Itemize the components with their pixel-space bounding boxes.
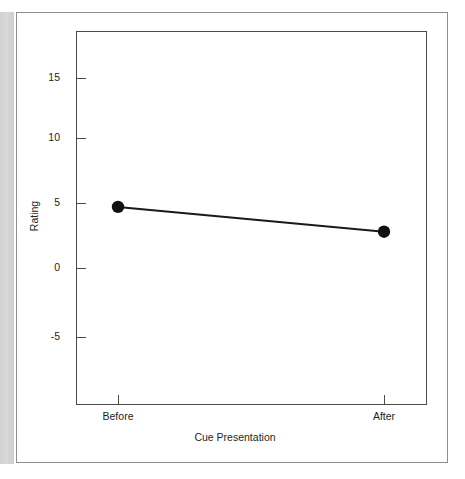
data-series-layer xyxy=(0,0,465,479)
data-point-before xyxy=(112,201,124,213)
series-line-rating xyxy=(118,207,384,232)
line-chart: 15 10 5 0 -5 Before After Cue Presentati… xyxy=(0,0,465,479)
data-point-after xyxy=(378,225,390,237)
figure-page: 15 10 5 0 -5 Before After Cue Presentati… xyxy=(0,0,465,479)
